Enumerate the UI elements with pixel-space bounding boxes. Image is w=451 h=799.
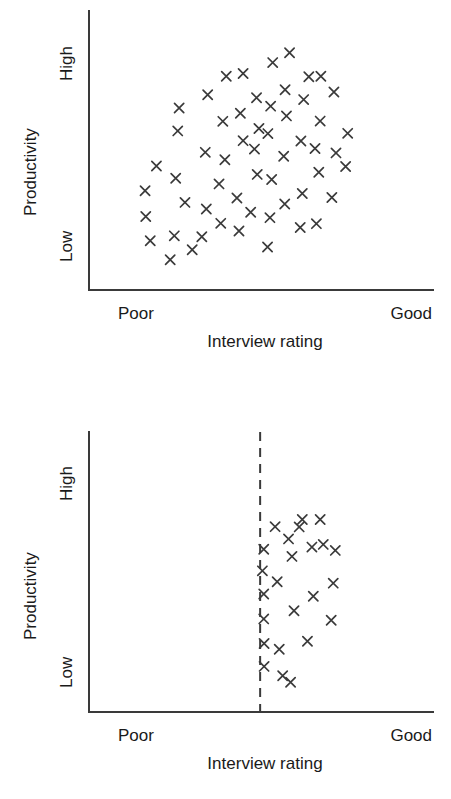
scatter-marker [232, 193, 241, 202]
scatter-marker [220, 155, 229, 164]
scatter-marker [239, 69, 248, 78]
scatter-marker [180, 198, 189, 207]
scatter-marker [218, 117, 227, 126]
scatter-marker [309, 592, 318, 601]
scatter-marker [258, 566, 267, 575]
scatter-marker [216, 219, 225, 228]
y-low-label-bottom: Low [57, 656, 76, 688]
scatter-marker [214, 179, 223, 188]
scatter-marker [289, 606, 298, 615]
scatter-marker [316, 515, 325, 524]
scatter-marker [329, 579, 338, 588]
scatter-marker [254, 124, 263, 133]
scatter-marker [202, 204, 211, 213]
scatter-marker [266, 102, 275, 111]
scatter-marker [280, 199, 289, 208]
scatter-marker [331, 546, 340, 555]
scatter-marker [140, 186, 149, 195]
scatter-marker [343, 129, 352, 138]
x-axis-title-top: Interview rating [207, 332, 322, 351]
scatter-marker [246, 208, 255, 217]
scatter-marker [298, 189, 307, 198]
scatter-marker [268, 58, 277, 67]
scatter-marker [166, 255, 175, 264]
scatter-marker [259, 614, 268, 623]
scatter-marker [250, 145, 259, 154]
scatter-marker [279, 152, 288, 161]
scatter-marker [203, 90, 212, 99]
scatter-marker [271, 522, 280, 531]
scatter-marker [280, 85, 289, 94]
scatter-marker [327, 616, 336, 625]
scatter-marker [273, 577, 282, 586]
scatter-marker [263, 129, 272, 138]
data-markers-bottom [258, 515, 340, 687]
scatter-marker [188, 245, 197, 254]
scatter-marker [260, 662, 269, 671]
scatter-marker [239, 136, 248, 145]
scatter-marker [282, 111, 291, 120]
scatter-marker [341, 162, 350, 171]
scatter-marker [312, 219, 321, 228]
scatter-marker [304, 72, 313, 81]
plot-area-top: High Low Productivity Poor Good Intervie… [0, 0, 451, 400]
axis-lines-top [89, 11, 433, 290]
scatter-marker [222, 72, 231, 81]
scatter-marker [275, 645, 284, 654]
y-high-label-bottom: High [57, 466, 76, 501]
scatter-marker [252, 93, 261, 102]
scatter-marker [267, 175, 276, 184]
x-high-label-bottom: Good [390, 726, 432, 745]
scatter-marker [327, 193, 336, 202]
scatter-marker [316, 72, 325, 81]
scatter-marker [171, 174, 180, 183]
x-low-label-top: Poor [118, 304, 154, 323]
scatter-marker [152, 161, 161, 170]
scatter-marker [146, 236, 155, 245]
scatter-marker [303, 637, 312, 646]
scatter-panel-restricted: High Low Productivity Poor Good Intervie… [0, 400, 451, 799]
scatter-marker [299, 95, 308, 104]
scatter-marker [236, 109, 245, 118]
scatter-marker [265, 213, 274, 222]
x-axis-title-bottom: Interview rating [207, 754, 322, 773]
scatter-marker [329, 87, 338, 96]
y-axis-title-top: Productivity [21, 128, 40, 216]
scatter-marker [286, 678, 295, 687]
scatter-marker [141, 212, 150, 221]
scatter-marker [263, 242, 272, 251]
scatter-marker [173, 126, 182, 135]
scatter-marker [310, 144, 319, 153]
y-axis-title-bottom: Productivity [21, 552, 40, 640]
scatter-marker [253, 170, 262, 179]
scatter-marker [316, 116, 325, 125]
scatter-marker [197, 232, 206, 241]
scatter-marker [314, 168, 323, 177]
plot-area-bottom: High Low Productivity Poor Good Intervie… [0, 400, 451, 799]
data-markers-top [140, 48, 352, 264]
y-high-label-top: High [57, 46, 76, 81]
scatter-marker [319, 540, 328, 549]
scatter-marker [175, 103, 184, 112]
scatter-marker [278, 671, 287, 680]
scatter-marker [170, 231, 179, 240]
scatter-marker [201, 148, 210, 157]
scatter-marker [284, 534, 293, 543]
scatter-panel-unrestricted: High Low Productivity Poor Good Intervie… [0, 0, 451, 400]
x-high-label-top: Good [390, 304, 432, 323]
scatter-marker [307, 543, 316, 552]
scatter-marker [287, 552, 296, 561]
x-low-label-bottom: Poor [118, 726, 154, 745]
y-low-label-top: Low [57, 230, 76, 262]
scatter-marker [234, 226, 243, 235]
scatter-marker [285, 48, 294, 57]
scatter-marker [296, 223, 305, 232]
scatter-marker [296, 136, 305, 145]
scatter-marker [331, 148, 340, 157]
